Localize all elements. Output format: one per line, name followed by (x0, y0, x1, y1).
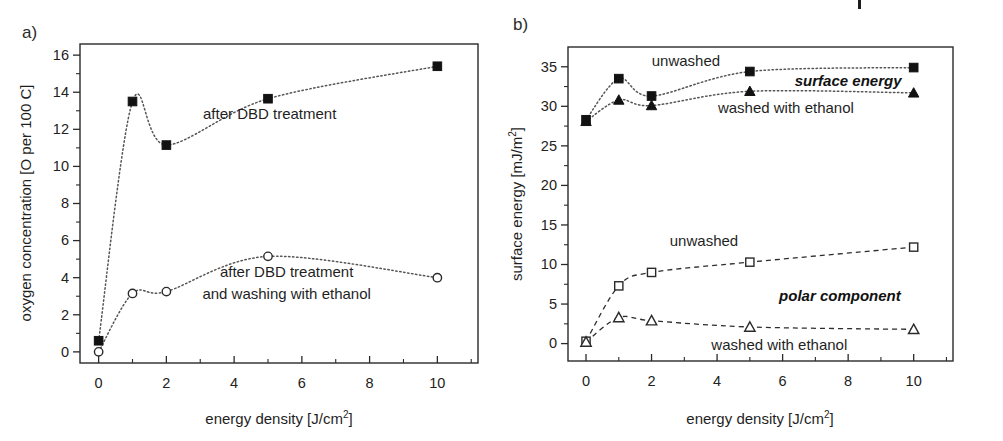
x-tick-label: 10 (906, 373, 922, 389)
panel-a-x-axis-title: energy density [J/cm2] (205, 409, 352, 427)
data-point-after-dbd-treatment-and-washing-with-ethanol-4 (433, 273, 441, 281)
y-tick-label: 2 (61, 307, 69, 323)
y-tick-label: 10 (541, 256, 557, 272)
y-tick-label: 4 (61, 270, 69, 286)
annotation-label: after DBD treatment (220, 263, 354, 280)
y-tick-label: 16 (53, 47, 69, 63)
data-point-surface-energy-unwashed-4 (909, 63, 918, 72)
data-point-after-dbd-treatment-3 (264, 94, 273, 103)
figure-background (0, 0, 1003, 441)
data-point-polar-component-unwashed-2 (647, 268, 655, 276)
x-tick-label: 8 (366, 375, 374, 391)
crop-artifact-speck (858, 0, 861, 9)
y-tick-label: 20 (541, 177, 557, 193)
y-tick-label: 8 (61, 195, 69, 211)
data-point-after-dbd-treatment-1 (128, 97, 137, 106)
y-tick-label: 30 (541, 98, 557, 114)
annotation-label: polar component (778, 287, 902, 304)
data-point-after-dbd-treatment-and-washing-with-ethanol-1 (128, 289, 136, 297)
data-point-after-dbd-treatment-0 (94, 336, 103, 345)
data-point-after-dbd-treatment-and-washing-with-ethanol-3 (264, 252, 272, 260)
x-tick-label: 4 (713, 373, 721, 389)
x-tick-label: 2 (162, 375, 170, 391)
panel-b-y-axis-title: surface energy [mJ/m2] (507, 127, 525, 281)
x-tick-label: 6 (298, 375, 306, 391)
y-tick-label: 0 (549, 335, 557, 351)
annotation-label: unwashed (670, 232, 738, 249)
annotation-label: and washing with ethanol (202, 285, 370, 302)
data-point-after-dbd-treatment-and-washing-with-ethanol-2 (162, 287, 170, 295)
data-point-surface-energy-unwashed-1 (614, 74, 623, 83)
x-tick-label: 8 (844, 373, 852, 389)
data-point-after-dbd-treatment-2 (162, 141, 171, 150)
x-tick-label: 0 (582, 373, 590, 389)
y-tick-label: 35 (541, 59, 557, 75)
data-point-after-dbd-treatment-4 (433, 62, 442, 71)
y-tick-label: 0 (61, 344, 69, 360)
y-tick-label: 6 (61, 232, 69, 248)
annotation-label: washed with ethanol (710, 336, 847, 353)
x-tick-label: 2 (648, 373, 656, 389)
y-tick-label: 5 (549, 296, 557, 312)
x-tick-label: 0 (95, 375, 103, 391)
figure-canvas: a) 02468100246810121416 after DBD treatm… (0, 0, 1003, 441)
y-tick-label: 25 (541, 138, 557, 154)
data-point-after-dbd-treatment-and-washing-with-ethanol-0 (94, 348, 102, 356)
panel-b-letter: b) (513, 15, 528, 34)
data-point-polar-component-unwashed-3 (746, 258, 754, 266)
annotation-label: after DBD treatment (203, 105, 337, 122)
y-tick-label: 15 (541, 217, 557, 233)
x-tick-label: 4 (230, 375, 238, 391)
data-point-polar-component-unwashed-4 (910, 243, 918, 251)
annotation-label: washed with ethanol (717, 99, 854, 116)
x-tick-label: 10 (429, 375, 445, 391)
data-point-surface-energy-unwashed-3 (746, 67, 755, 76)
data-point-surface-energy-unwashed-2 (647, 92, 656, 101)
y-tick-label: 10 (53, 158, 69, 174)
panel-a-letter: a) (22, 23, 37, 42)
annotation-label: unwashed (652, 52, 720, 69)
x-tick-label: 6 (779, 373, 787, 389)
data-point-polar-component-unwashed-1 (615, 282, 623, 290)
y-tick-label: 12 (53, 121, 69, 137)
panel-a-y-axis-title: oxygen concentration [O per 100 C] (17, 85, 34, 322)
y-tick-label: 14 (53, 84, 69, 100)
annotation-label: surface energy (795, 72, 902, 89)
panel-b-x-axis-title: energy density [J/cm2] (686, 409, 833, 427)
